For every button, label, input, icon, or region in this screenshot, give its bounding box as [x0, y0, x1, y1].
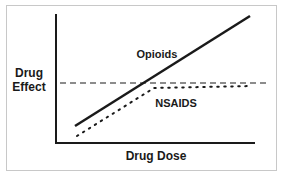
y-axis-label-line1: Drug [15, 66, 43, 80]
opioids-line [75, 16, 250, 126]
nsaids-label: NSAIDS [155, 97, 197, 109]
y-axis-label-line2: Effect [12, 80, 45, 94]
nsaids-line [77, 86, 252, 136]
chart: Drug Effect Drug Dose Opioids NSAIDS [0, 0, 285, 177]
opioids-label: Opioids [137, 48, 178, 60]
x-axis-label: Drug Dose [126, 149, 187, 163]
